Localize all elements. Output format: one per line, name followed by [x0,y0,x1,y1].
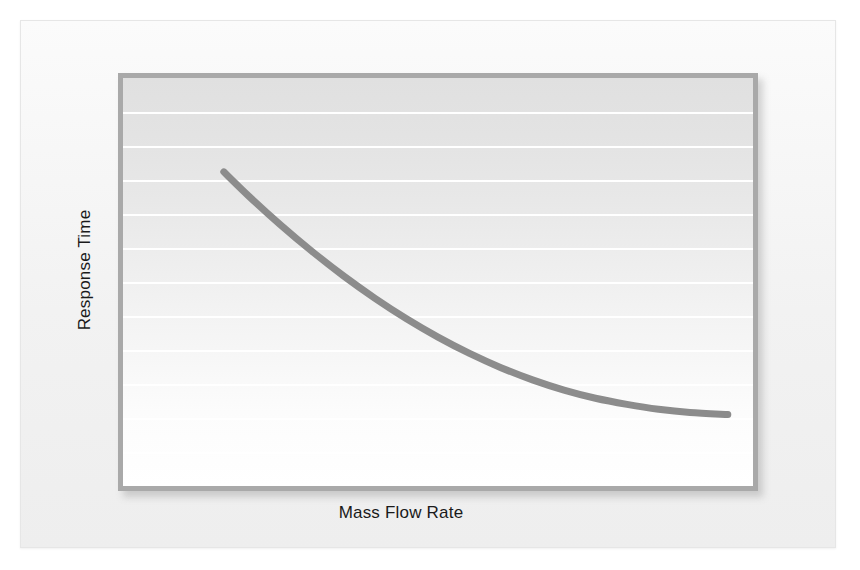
y-axis-label: Response Time [75,175,95,365]
chart-area: Response Time Mass Flow Rate [21,21,837,549]
series-canvas [123,78,753,486]
series-line-response-time [224,172,728,415]
plot-area [118,73,758,491]
plot-background [123,78,753,486]
figure-frame: Response Time Mass Flow Rate [20,20,836,548]
x-axis-label: Mass Flow Rate [21,503,781,523]
